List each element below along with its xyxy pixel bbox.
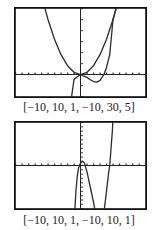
x-tick [67, 73, 68, 75]
graph-window-top [14, 7, 147, 98]
x-tick [119, 73, 120, 75]
y-tick [81, 182, 83, 183]
x-tick [100, 164, 101, 166]
x-tick [28, 73, 29, 75]
x-tick [54, 164, 55, 166]
x-tick [22, 164, 23, 166]
y-tick [81, 187, 83, 188]
x-tick [113, 73, 114, 75]
y-tick [81, 126, 83, 127]
y-tick [81, 144, 83, 145]
y-tick [81, 52, 83, 53]
y-tick [81, 148, 83, 149]
y-tick [81, 139, 83, 140]
y-tick [81, 199, 83, 200]
x-tick [100, 73, 101, 75]
x-tick [93, 73, 94, 75]
y-tick [81, 169, 83, 170]
x-tick [139, 164, 140, 166]
x-tick [67, 164, 68, 166]
y-tick [81, 135, 83, 136]
y-tick [81, 178, 83, 179]
x-tick [93, 164, 94, 166]
x-tick [139, 73, 140, 75]
graph-panel-top: [−10, 10, 1, −10, 30, 5] [0, 0, 158, 115]
plot-bottom [14, 121, 147, 210]
x-tick [132, 73, 133, 75]
y-tick [81, 152, 83, 153]
y-tick [81, 174, 83, 175]
x-tick [113, 164, 114, 166]
y-tick [81, 30, 83, 31]
x-tick [132, 164, 133, 166]
window-caption-bottom: [−10, 10, 1, −10, 10, 1] [0, 213, 158, 228]
x-tick [126, 73, 127, 75]
x-tick [22, 73, 23, 75]
x-tick [35, 73, 36, 75]
y-tick [81, 85, 83, 86]
y-tick [81, 191, 83, 192]
x-tick [41, 73, 42, 75]
graph-window-bottom [14, 121, 147, 210]
window-caption-top: [−10, 10, 1, −10, 30, 5] [0, 100, 158, 115]
plot-top [14, 7, 147, 98]
x-tick [35, 164, 36, 166]
x-tick [87, 164, 88, 166]
y-tick [81, 156, 83, 157]
y-tick [81, 41, 83, 42]
y-tick [81, 63, 83, 64]
x-tick [106, 164, 107, 166]
y-tick [81, 19, 83, 20]
x-tick [106, 73, 107, 75]
x-tick [74, 164, 75, 166]
x-tick [61, 73, 62, 75]
x-tick [54, 73, 55, 75]
y-tick [81, 204, 83, 205]
curve-curve [75, 161, 96, 210]
x-tick [28, 164, 29, 166]
x-tick [126, 164, 127, 166]
graph-panel-bottom: [−10, 10, 1, −10, 10, 1] [0, 115, 158, 230]
x-tick [61, 164, 62, 166]
curve-cubic [69, 7, 117, 98]
x-tick [48, 164, 49, 166]
x-tick [41, 164, 42, 166]
x-tick [48, 73, 49, 75]
x-tick [119, 164, 120, 166]
y-tick [81, 131, 83, 132]
y-tick [81, 195, 83, 196]
